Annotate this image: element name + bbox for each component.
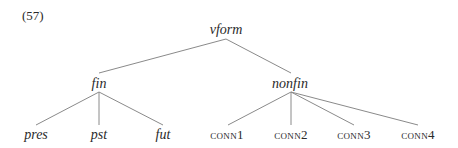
- edge-vform-nonfin: [226, 39, 291, 73]
- edge-vform-fin: [99, 39, 226, 73]
- leaf-conn4: conn4: [401, 128, 435, 142]
- node-nonfin: nonfin: [272, 77, 308, 91]
- leaf-pst: pst: [91, 128, 107, 142]
- edge-nonfin-conn4: [291, 92, 418, 125]
- node-fin: fin: [92, 77, 107, 91]
- leaf-pres: pres: [24, 128, 48, 142]
- leaf-fut: fut: [156, 128, 171, 142]
- leaf-conn1: conn1: [210, 128, 244, 142]
- leaf-conn2: conn2: [274, 128, 308, 142]
- edge-fin-pres: [36, 92, 99, 125]
- edge-fin-fut: [99, 92, 163, 125]
- edge-nonfin-conn1: [228, 92, 291, 125]
- node-root-vform: vform: [210, 23, 243, 37]
- leaf-conn3: conn3: [337, 128, 371, 142]
- edge-nonfin-conn3: [291, 92, 354, 125]
